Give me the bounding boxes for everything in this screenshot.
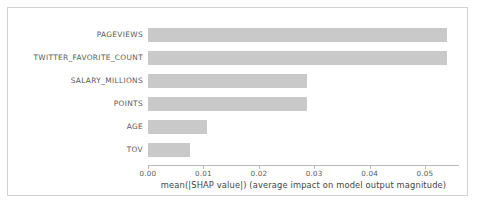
shap-summary-figure: PAGEVIEWSTWITTER_FAVORITE_COUNTSALARY_MI… [0, 0, 477, 210]
y-axis-tick-label: TOV [0, 143, 143, 157]
bar-row: TOV [0, 143, 477, 157]
feature-bar [148, 74, 307, 88]
feature-bar [148, 97, 307, 111]
y-axis-tick-label: TWITTER_FAVORITE_COUNT [0, 51, 143, 65]
x-tick-label: 0.01 [183, 169, 223, 178]
bar-row: TWITTER_FAVORITE_COUNT [0, 51, 477, 65]
feature-bar [148, 51, 447, 65]
y-axis-tick-label: AGE [0, 120, 143, 134]
y-axis-tick-label: PAGEVIEWS [0, 28, 143, 42]
x-tick-label: 0.02 [239, 169, 279, 178]
x-axis-label: mean(|SHAP value|) (average impact on mo… [148, 180, 459, 190]
feature-bar [148, 28, 447, 42]
x-tick-label: 0.03 [294, 169, 334, 178]
x-tick-label: 0.00 [128, 169, 168, 178]
plot-area: PAGEVIEWSTWITTER_FAVORITE_COUNTSALARY_MI… [0, 0, 477, 210]
feature-bar [148, 143, 190, 157]
x-axis-line [148, 165, 459, 166]
bar-row: PAGEVIEWS [0, 28, 477, 42]
y-axis-tick-label: SALARY_MILLIONS [0, 74, 143, 88]
bar-row: AGE [0, 120, 477, 134]
x-tick-label: 0.04 [350, 169, 390, 178]
y-axis-tick-label: POINTS [0, 97, 143, 111]
bar-row: SALARY_MILLIONS [0, 74, 477, 88]
bar-row: POINTS [0, 97, 477, 111]
feature-bar [148, 120, 207, 134]
x-tick-label: 0.05 [405, 169, 445, 178]
